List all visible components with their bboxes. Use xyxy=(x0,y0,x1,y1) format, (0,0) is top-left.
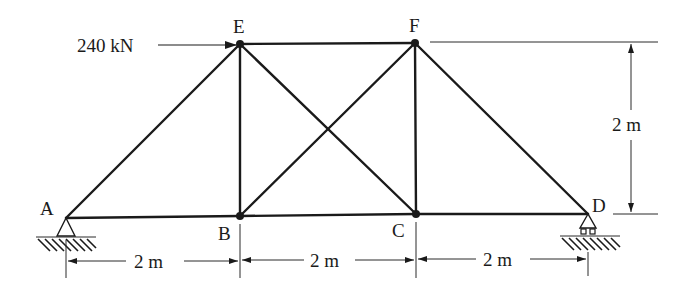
member-AE xyxy=(66,44,240,218)
member-BC xyxy=(240,214,416,216)
joint-B xyxy=(236,212,244,220)
truss-members xyxy=(66,43,588,218)
dimension-label-BC: 2 m xyxy=(310,250,339,271)
joint-E xyxy=(236,40,244,48)
load-label: 240 kN xyxy=(77,35,134,56)
member-AB xyxy=(66,216,240,218)
vertical-dimension: 2 m xyxy=(430,42,658,214)
node-label-C: C xyxy=(392,220,405,241)
node-label-B: B xyxy=(218,223,231,244)
truss-diagram: A B C D E F 240 kN 2 m 2 m 2 m 2 m xyxy=(0,0,689,297)
member-FD xyxy=(415,43,588,214)
roller-support-D xyxy=(560,214,620,250)
vertical-dimension-label: 2 m xyxy=(612,114,641,135)
member-FC xyxy=(415,43,416,214)
applied-load: 240 kN xyxy=(77,35,236,56)
dimension-label-CD: 2 m xyxy=(483,249,512,270)
member-EF xyxy=(240,43,415,44)
horizontal-dimensions: 2 m 2 m 2 m xyxy=(66,222,588,278)
joint-C xyxy=(412,210,420,218)
joint-F xyxy=(411,39,419,47)
node-label-D: D xyxy=(592,195,606,216)
dimension-label-AB: 2 m xyxy=(134,251,163,272)
node-label-F: F xyxy=(409,15,420,36)
node-label-A: A xyxy=(40,198,54,219)
node-label-E: E xyxy=(233,16,245,37)
